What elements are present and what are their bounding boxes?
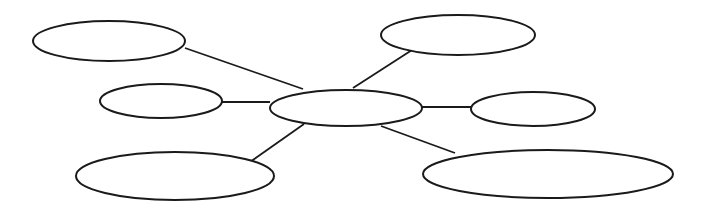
node-top-right bbox=[381, 15, 535, 55]
node-middle-right bbox=[471, 92, 595, 126]
edge-top-right bbox=[353, 50, 412, 88]
edge-bottom-left bbox=[250, 124, 304, 162]
node-middle-left-shape bbox=[100, 84, 222, 118]
node-top-left-shape bbox=[33, 21, 185, 61]
node-bottom-left bbox=[76, 152, 274, 200]
spider-diagram bbox=[0, 0, 709, 211]
node-top-left bbox=[33, 21, 185, 61]
node-center-shape bbox=[270, 90, 422, 126]
node-bottom-right-shape bbox=[423, 150, 673, 198]
nodes bbox=[33, 15, 673, 200]
edge-bottom-right bbox=[381, 126, 455, 153]
node-bottom-left-shape bbox=[76, 152, 274, 200]
node-middle-right-shape bbox=[471, 92, 595, 126]
node-middle-left bbox=[100, 84, 222, 118]
node-center bbox=[270, 90, 422, 126]
edge-top-left bbox=[185, 48, 303, 89]
node-top-right-shape bbox=[381, 15, 535, 55]
node-bottom-right bbox=[423, 150, 673, 198]
